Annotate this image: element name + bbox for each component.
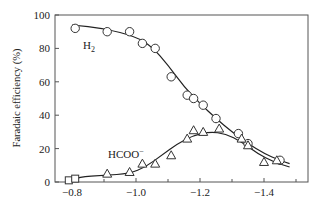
hcoo-data-point: [167, 151, 176, 159]
y-tick-label: 40: [39, 109, 51, 121]
x-tick-label: −1.0: [126, 186, 146, 198]
data-markers: [65, 24, 284, 184]
h2-data-point: [199, 101, 207, 109]
h2-data-point: [103, 28, 111, 36]
h2-data-point: [212, 114, 220, 122]
y-tick-label: 20: [39, 143, 51, 155]
y-tick-label: 60: [39, 76, 51, 88]
hcoo-data-point: [215, 124, 224, 132]
faradaic-efficiency-chart: 020406080100 −0.8−1.0−1.2−1.4 Faradaic e…: [0, 0, 327, 201]
hcoo-data-point: [151, 159, 160, 167]
fit-curve: [69, 132, 290, 182]
series-label-h2: H2: [83, 39, 95, 54]
hcoo-data-point: [138, 159, 147, 167]
x-tick-label: −1.2: [190, 186, 210, 198]
y-tick-label: 80: [39, 42, 51, 54]
x-tick-label: −0.8: [62, 186, 82, 198]
plot-frame: [55, 15, 308, 182]
hcoo-data-point: [183, 134, 192, 142]
y-axis-title: Faradaic efficiency (%): [11, 48, 23, 147]
h2-data-point: [125, 28, 133, 36]
y-tick-label: 100: [34, 9, 51, 21]
x-tick-label: −1.4: [254, 186, 274, 198]
h2-data-point: [189, 94, 197, 102]
series-label-hcoo: HCOO−: [108, 147, 144, 160]
fit-curve: [72, 25, 290, 164]
hcoo-data-point: [199, 127, 208, 135]
square-data-point: [72, 175, 79, 182]
fit-curves: [69, 25, 290, 182]
x-axis: −0.8−1.0−1.2−1.4: [62, 178, 296, 198]
h2-data-point: [151, 44, 159, 52]
hcoo-data-point: [103, 169, 112, 177]
hcoo-data-point: [189, 126, 198, 134]
h2-data-point: [71, 24, 79, 32]
h2-data-point: [138, 39, 146, 47]
y-tick-label: 0: [45, 176, 51, 188]
h2-data-point: [167, 73, 175, 81]
